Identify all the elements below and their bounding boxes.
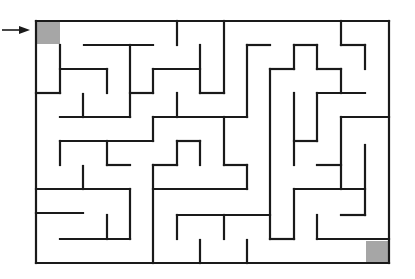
entry-arrow-icon xyxy=(2,26,30,34)
start-cell xyxy=(37,22,60,44)
maze-board xyxy=(0,0,415,279)
maze-walls xyxy=(36,21,389,263)
finish-cell xyxy=(366,241,388,262)
